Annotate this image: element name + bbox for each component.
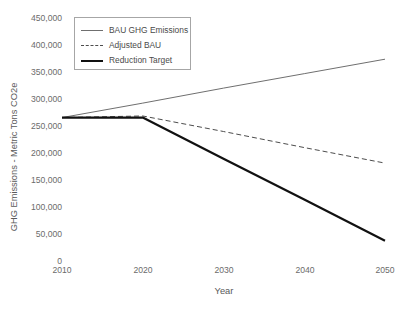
legend-item-label: Adjusted BAU bbox=[109, 40, 161, 50]
x-tick-label: 2040 bbox=[280, 265, 330, 275]
legend-item-bau-ghg-emissions: BAU GHG Emissions bbox=[80, 22, 188, 37]
legend-item-label: BAU GHG Emissions bbox=[109, 25, 188, 35]
chart-container: 450,000 400,000 350,000 300,000 250,000 … bbox=[0, 0, 402, 311]
series-line-adjusted-bau bbox=[62, 116, 385, 163]
x-tick-label: 2020 bbox=[118, 265, 168, 275]
legend-item-label: Reduction Target bbox=[109, 55, 172, 65]
legend-line-thick-icon bbox=[80, 54, 104, 66]
legend-item-reduction-target: Reduction Target bbox=[80, 52, 172, 67]
x-tick-label: 2030 bbox=[199, 265, 249, 275]
x-tick-label: 2050 bbox=[360, 265, 402, 275]
legend-item-adjusted-bau: Adjusted BAU bbox=[80, 37, 161, 52]
chart-legend: BAU GHG Emissions Adjusted BAU Reduction… bbox=[74, 17, 191, 70]
x-tick-label: 2010 bbox=[37, 265, 87, 275]
legend-line-solid-icon bbox=[80, 24, 104, 36]
x-axis-title: Year bbox=[62, 286, 386, 296]
series-line-reduction-target bbox=[62, 118, 385, 241]
legend-line-dashed-icon bbox=[80, 39, 104, 51]
